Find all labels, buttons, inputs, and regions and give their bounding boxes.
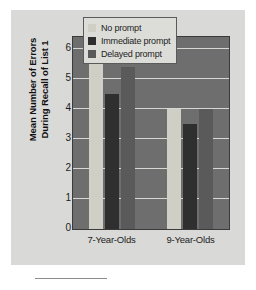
bar: [105, 94, 119, 229]
legend-swatch-icon: [88, 50, 96, 58]
x-axis-tick-label: 9-Year-Olds: [151, 234, 230, 245]
legend-swatch-icon: [88, 24, 96, 32]
legend-item: Immediate prompt: [88, 34, 170, 47]
bar: [121, 67, 135, 229]
legend-label: No prompt: [101, 23, 141, 33]
legend-label: Immediate prompt: [101, 36, 170, 46]
bar: [167, 109, 181, 229]
y-axis-title: Mean Number of Errors During Recall of L…: [27, 15, 50, 165]
y-axis-tick-label: 3: [51, 133, 71, 143]
legend-swatch-icon: [88, 37, 96, 45]
y-axis-tick-labels: 0123456: [51, 30, 71, 236]
y-axis-tick-label: 0: [51, 223, 71, 233]
y-axis-tick-label: 6: [51, 43, 71, 53]
x-axis-tick-labels: 7-Year-Olds9-Year-Olds: [72, 234, 230, 245]
y-axis-tick-label: 5: [51, 73, 71, 83]
legend-item: Delayed prompt: [88, 47, 170, 60]
bar: [89, 64, 103, 229]
bar: [183, 124, 197, 229]
y-axis-tick-label: 1: [51, 193, 71, 203]
legend-label: Delayed prompt: [101, 49, 162, 59]
bar: [199, 109, 213, 229]
caption-divider: [35, 278, 107, 279]
figure-panel: Mean Number of Errors During Recall of L…: [11, 10, 245, 265]
legend-item: No prompt: [88, 21, 170, 34]
y-axis-title-line-2: During Recall of List 1: [38, 15, 50, 165]
y-axis-tick-label: 2: [51, 163, 71, 173]
chart-legend: No promptImmediate promptDelayed prompt: [83, 17, 177, 64]
plot-area: [72, 36, 230, 230]
y-axis-title-line-1: Mean Number of Errors: [27, 15, 39, 165]
x-axis-tick-label: 7-Year-Olds: [72, 234, 151, 245]
y-axis-tick-label: 4: [51, 103, 71, 113]
